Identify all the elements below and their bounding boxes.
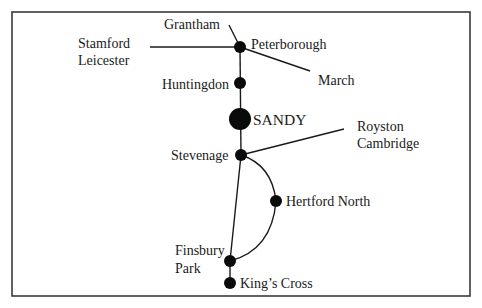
station-node-kings-cross [224, 277, 236, 289]
track-stevenage-finsbury [230, 155, 241, 261]
station-node-stevenage [235, 149, 247, 161]
track-stevenage-royston [241, 129, 344, 155]
stations [224, 41, 282, 289]
label-march: March [318, 73, 355, 88]
label-cambridge: Cambridge [357, 136, 419, 151]
label-sandy: SANDY [253, 111, 306, 128]
label-leicester: Leicester [78, 53, 130, 68]
label-royston: Royston [357, 119, 404, 134]
label-stevenage: Stevenage [171, 148, 229, 163]
label-peterborough: Peterborough [251, 37, 326, 52]
label-hertford-north: Hertford North [286, 194, 370, 209]
track-hertford-loop-south [230, 201, 276, 261]
station-node-hertford-north [270, 195, 282, 207]
label-park: Park [175, 261, 201, 276]
label-stamford: Stamford [78, 36, 130, 51]
label-kings-cross: King’s Cross [240, 276, 313, 291]
railway-diagram: Grantham Stamford Leicester Peterborough… [0, 0, 482, 308]
track-hertford-loop-north [241, 155, 276, 201]
track-main-north [240, 47, 241, 155]
label-grantham: Grantham [164, 17, 220, 32]
station-node-finsbury-park [224, 255, 236, 267]
label-finsbury: Finsbury [175, 243, 225, 258]
station-node-sandy [229, 108, 251, 130]
label-huntingdon: Huntingdon [162, 77, 229, 92]
station-node-huntingdon [234, 77, 246, 89]
labels: Grantham Stamford Leicester Peterborough… [78, 17, 419, 291]
station-node-peterborough [234, 41, 246, 53]
